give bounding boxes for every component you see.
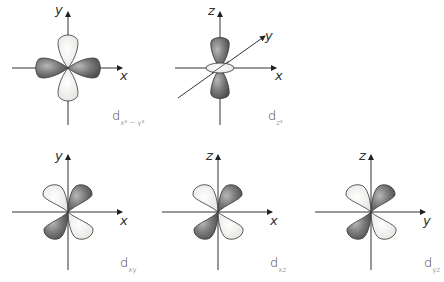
- axis-label-y: y: [423, 213, 431, 228]
- axis-label-y: y: [265, 28, 273, 43]
- axis-label-z: z: [206, 148, 213, 163]
- axis-label-x: x: [270, 213, 278, 228]
- orbital-label-dxy: dxy: [120, 255, 137, 274]
- dz2-orbital: [175, 12, 276, 125]
- label-sub: xy: [128, 266, 136, 274]
- dyz-orbital: [315, 155, 425, 270]
- label-sub: xz: [278, 266, 286, 274]
- orbital-label-dz2: dz²: [268, 108, 283, 127]
- orbital-diagram: [0, 0, 444, 282]
- axis-label-x: x: [120, 68, 128, 83]
- dx2-y2-orbital: [12, 12, 122, 125]
- dxz-orbital: [162, 155, 272, 270]
- orbital-label-dyz: dyz: [424, 255, 440, 274]
- label-sub: z²: [276, 119, 282, 127]
- axis-label-y: y: [55, 148, 63, 163]
- label-sub: x² − y²: [120, 119, 144, 127]
- orbital-label-dxz: dxz: [270, 255, 286, 274]
- axis-label-z: z: [208, 3, 215, 18]
- label-sub: yz: [432, 266, 440, 274]
- axis-label-z: z: [359, 148, 366, 163]
- dxy-orbital: [12, 155, 122, 270]
- axis-label-x: x: [275, 68, 283, 83]
- orbital-label-dx2-y2: dx² − y²: [112, 108, 144, 127]
- axis-label-y: y: [55, 2, 63, 17]
- axis-label-x: x: [120, 213, 128, 228]
